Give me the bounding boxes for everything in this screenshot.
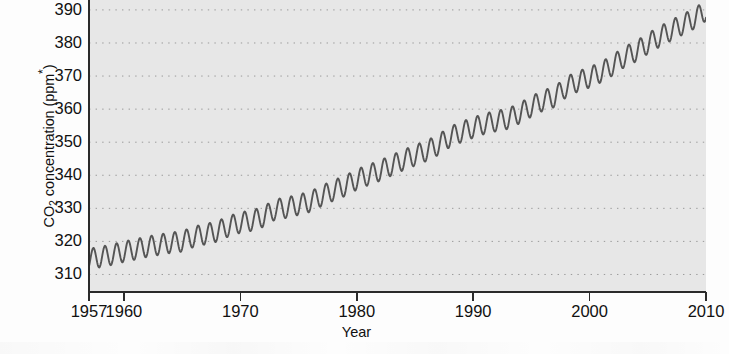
y-tick-label: 360	[8, 100, 82, 117]
y-tick-label: 330	[8, 199, 82, 216]
x-tick-mark	[123, 292, 125, 301]
y-tick-label: 390	[8, 1, 82, 18]
co2-concentration-chart: CO2 concentration (ppm*) 310320330340350…	[0, 0, 729, 354]
y-tick-label: 310	[8, 265, 82, 282]
x-tick-mark	[356, 292, 358, 301]
y-tick-label: 370	[8, 67, 82, 84]
x-tick-mark	[589, 292, 591, 301]
plot-canvas	[89, 0, 706, 291]
y-tick-label-group: 310320330340350360370380390	[8, 0, 82, 291]
y-tick-label: 380	[8, 34, 82, 51]
x-tick-label: 1957	[71, 303, 108, 320]
y-tick-label: 320	[8, 232, 82, 249]
x-tick-mark	[705, 292, 707, 301]
x-tick-label: 1970	[222, 303, 259, 320]
x-tick-label: 2010	[688, 303, 725, 320]
x-axis-title-text: Year	[342, 324, 371, 340]
x-tick-label: 1980	[338, 303, 375, 320]
y-tick-label: 340	[8, 166, 82, 183]
x-axis-title: Year	[0, 324, 729, 340]
plot-area	[89, 0, 706, 291]
y-axis-spine	[88, 0, 90, 292]
co2-curve-line	[89, 5, 706, 267]
x-tick-label: 2000	[571, 303, 608, 320]
page-bleed-artifact	[0, 342, 729, 354]
x-tick-mark	[240, 292, 242, 301]
y-tick-label: 350	[8, 133, 82, 150]
x-axis-spine	[88, 291, 706, 293]
x-tick-mark	[472, 292, 474, 301]
x-tick-label: 1990	[455, 303, 492, 320]
gridlines	[89, 10, 706, 275]
x-tick-label: 1960	[106, 303, 143, 320]
x-tick-mark	[88, 292, 90, 301]
